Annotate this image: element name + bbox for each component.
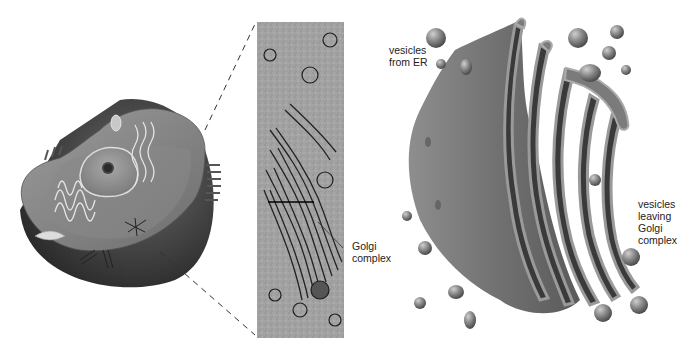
cell-illustration: [0, 0, 698, 356]
label-vesicles-leaving-golgi: vesicles leaving Golgi complex: [638, 198, 677, 246]
electron-micrograph: [257, 22, 344, 338]
label-golgi-complex: Golgi complex: [352, 240, 391, 264]
label-vesicles-from-er: vesicles from ER: [389, 44, 428, 68]
golgi-3d-illustration: [402, 19, 648, 329]
cell-body: [20, 99, 221, 287]
